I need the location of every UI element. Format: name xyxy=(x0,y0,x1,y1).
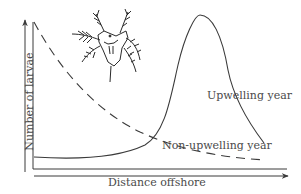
upwelling-year-label: Upwelling year xyxy=(207,89,292,102)
non-upwelling-year-label: Non-upwelling year xyxy=(162,139,272,152)
x-axis-label: Distance offshore xyxy=(108,176,206,189)
larvae-distribution-figure: Number of larvae Distance offshore Upwel… xyxy=(0,0,301,194)
upwelling-curve xyxy=(34,15,264,158)
larva-illustration-icon xyxy=(72,9,141,82)
y-axis-label: Number of larvae xyxy=(23,47,36,157)
